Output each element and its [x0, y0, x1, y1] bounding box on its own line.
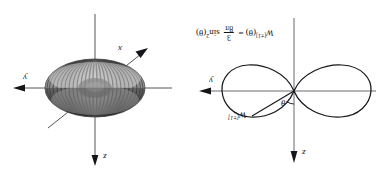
radiation-pattern-formula: W[±1](θ) = 3 8π sin2(θ)	[196, 24, 274, 41]
axis-label-y-left: y	[23, 73, 27, 82]
formula-equals: =	[238, 28, 243, 38]
curve-label-w: W[±1]	[228, 110, 246, 121]
formula-numerator: 3	[224, 32, 234, 41]
left-figure-panel: x y z	[0, 0, 190, 181]
curve-label-superscript: [±1]	[228, 115, 239, 121]
formula-trig-power: 2	[206, 33, 209, 39]
formula-function: W	[266, 28, 274, 38]
formula-fraction: 3 8π	[224, 24, 234, 41]
y-axis-right	[199, 87, 376, 94]
torus-diagram	[0, 0, 190, 181]
theta-arc	[287, 102, 295, 105]
curve-label-function: W	[239, 110, 247, 120]
formula-superscript: [±1]	[256, 33, 266, 39]
axis-label-z-right: z	[302, 148, 306, 157]
formula-trig: sin	[209, 28, 220, 38]
formula-argument: (θ)	[246, 28, 256, 38]
axis-label-x-left: x	[118, 44, 122, 53]
angle-label-theta: θ	[281, 98, 285, 107]
torus-surface	[45, 59, 145, 117]
axis-label-y-right: y	[209, 76, 213, 85]
formula-trig-argument: (θ)	[196, 28, 206, 38]
right-figure-panel: W[±1](θ) = 3 8π sin2(θ) W[±1] θ y z	[190, 0, 381, 181]
figure-plate: x y z	[0, 0, 381, 181]
axis-label-z-left: z	[103, 152, 107, 161]
formula-denominator: 8π	[224, 24, 234, 32]
